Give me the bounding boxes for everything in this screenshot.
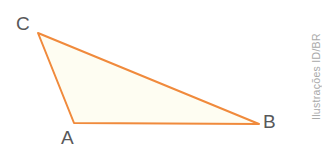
vertex-label-b: B <box>263 112 276 131</box>
vertex-label-a: A <box>61 128 74 147</box>
vertex-label-c: C <box>16 14 30 33</box>
triangle-shape <box>38 33 259 124</box>
triangle-diagram <box>0 0 327 154</box>
geometry-figure: C A B Ilustrações ID/BR <box>0 0 327 154</box>
image-credit-text: Ilustrações ID/BR <box>307 0 325 154</box>
